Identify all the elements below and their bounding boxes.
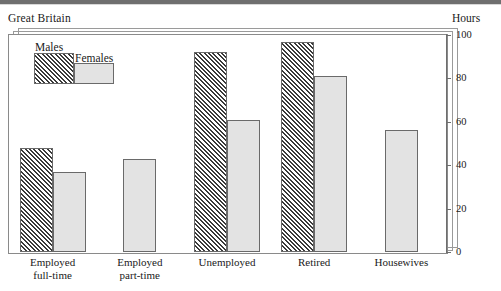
y-axis-tick-label: 80 — [456, 73, 467, 83]
bar-males — [281, 42, 314, 252]
x-axis-category-label: Housewives — [358, 256, 445, 269]
y-axis-tick-label: 40 — [456, 160, 467, 170]
y-axis-tick-label: 0 — [456, 247, 461, 257]
y-axis-tick — [446, 209, 451, 210]
y-axis-tick-label: 100 — [456, 30, 472, 40]
bar-males — [20, 148, 53, 252]
page-title: Great Britain — [8, 12, 71, 24]
y-axis-tick — [446, 35, 451, 36]
y-axis-tick — [446, 78, 451, 79]
legend-swatch-females — [74, 63, 114, 84]
axis-units-label: Hours — [452, 12, 480, 24]
y-axis-tick-label: 60 — [456, 117, 467, 127]
y-axis-line — [446, 34, 447, 253]
x-axis-category-label: Employed full-time — [9, 256, 96, 281]
bar-females — [227, 120, 260, 252]
bar-males — [194, 52, 227, 252]
chart-figure: Great Britain Hours 020406080100 Employe… — [0, 5, 501, 291]
x-axis-category-label: Employed part-time — [96, 256, 183, 281]
bar-females — [314, 76, 347, 252]
x-axis-category-label: Retired — [271, 256, 358, 269]
bar-females — [385, 130, 418, 252]
legend-label-males: Males — [35, 41, 63, 53]
y-axis-tick — [446, 122, 451, 123]
bar-females — [53, 172, 86, 252]
y-axis-tick-label: 20 — [456, 204, 467, 214]
legend-swatch-males — [34, 53, 74, 84]
x-axis-category-label: Unemployed — [183, 256, 270, 269]
y-axis-tick — [446, 252, 451, 253]
y-axis-tick — [446, 165, 451, 166]
bar-females — [123, 159, 156, 252]
